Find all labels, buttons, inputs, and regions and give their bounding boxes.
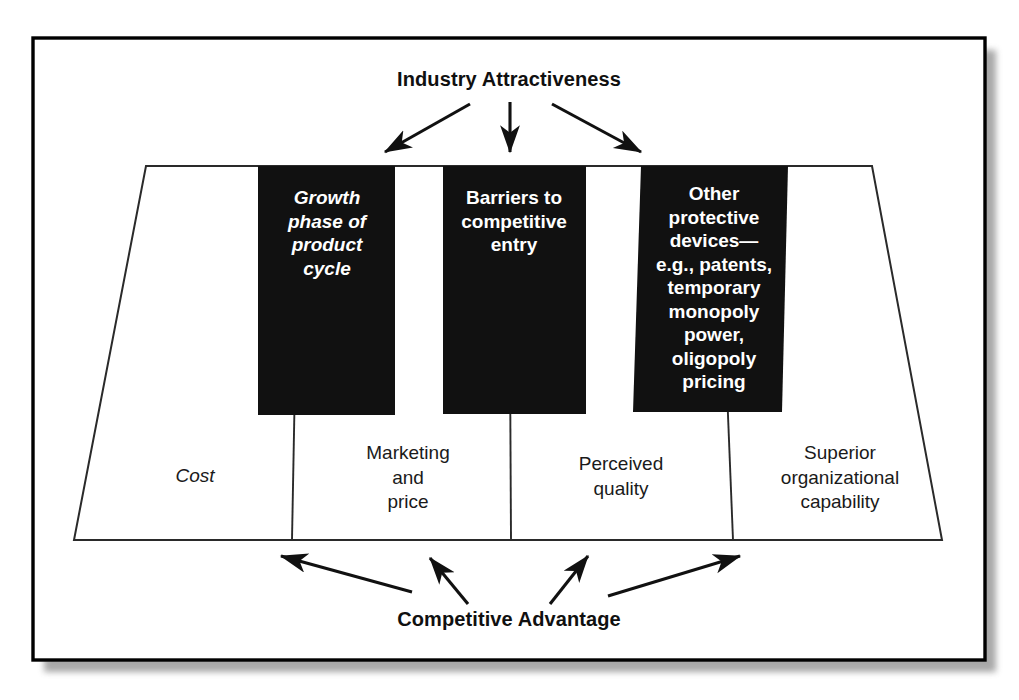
segment-label-cost: Cost bbox=[100, 464, 290, 489]
black-box-label-barriers-entry: Barriers to competitive entry bbox=[443, 186, 585, 257]
industry-attractiveness-heading: Industry Attractiveness bbox=[309, 68, 709, 91]
black-box-label-protective-devices: Other protective devices— e.g., patents,… bbox=[639, 182, 789, 394]
segment-label-superior-organizational-capability: Superior organizational capability bbox=[742, 441, 938, 515]
competitive-advantage-heading: Competitive Advantage bbox=[309, 608, 709, 631]
segment-label-perceived-quality: Perceived quality bbox=[528, 452, 714, 501]
segment-label-marketing-and-price: Marketing and price bbox=[316, 441, 500, 515]
diagram-canvas bbox=[0, 0, 1019, 700]
black-box-label-growth-phase: Growth phase of product cycle bbox=[258, 186, 396, 280]
diagram-figure: Industry Attractiveness Competitive Adva… bbox=[0, 0, 1019, 700]
